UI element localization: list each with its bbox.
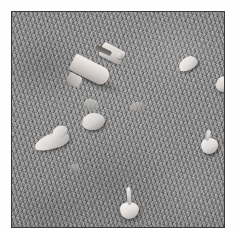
whistle-mouthpiece [98,41,126,65]
photo-canvas [0,0,237,229]
photograph-frame [11,11,225,228]
whistle-object [12,12,224,227]
